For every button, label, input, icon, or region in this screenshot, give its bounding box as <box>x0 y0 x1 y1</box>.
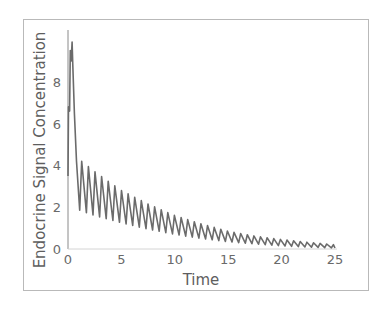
y-tick-label: 2 <box>53 200 61 215</box>
line-chart: 051015202502468 Time Endocrine Signal Co… <box>0 0 390 310</box>
y-tick-label: 6 <box>53 117 61 132</box>
signal-line <box>68 42 335 248</box>
y-axis-title: Endocrine Signal Concentration <box>31 32 49 269</box>
x-tick-label: 25 <box>327 252 344 267</box>
x-tick-label: 0 <box>64 252 72 267</box>
y-tick-label: 0 <box>53 242 61 257</box>
axes <box>68 30 337 249</box>
x-tick-label: 15 <box>220 252 237 267</box>
y-tick-label: 4 <box>53 158 61 173</box>
x-tick-label: 10 <box>167 252 184 267</box>
y-tick-label: 8 <box>53 75 61 90</box>
x-tick-label: 20 <box>273 252 290 267</box>
tick-labels: 051015202502468 <box>53 75 344 267</box>
x-axis-title: Time <box>182 271 220 289</box>
x-tick-label: 5 <box>117 252 125 267</box>
